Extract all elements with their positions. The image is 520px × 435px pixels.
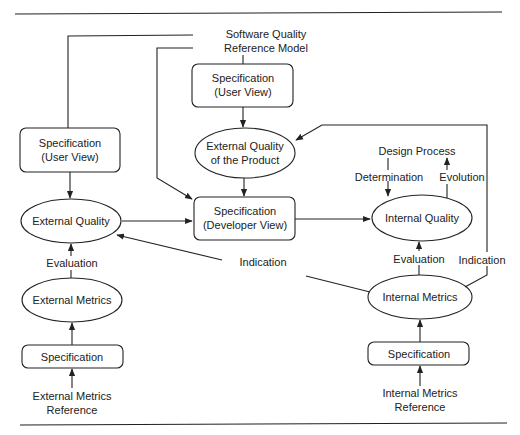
- evolution-label: Evolution: [439, 171, 484, 184]
- ext-metrics-reference-line1: External Metrics: [33, 389, 112, 403]
- edge-ref-to-left-spec: [68, 35, 193, 128]
- bottom-rule: [20, 423, 507, 425]
- ext-metrics-reference-line2: Reference: [33, 403, 112, 417]
- design-process: Design Process: [378, 145, 455, 158]
- spec-user-view-top: Specification (User View): [212, 71, 274, 99]
- ext-metrics-reference: External Metrics Reference: [33, 389, 112, 417]
- ext-quality-product-line2: of the Product: [206, 153, 284, 167]
- spec-user-view-top-line2: (User View): [212, 85, 274, 99]
- int-spec: Specification: [388, 347, 450, 361]
- spec-user-view-top-line1: Specification: [212, 71, 274, 85]
- spec-user-view-left: Specification (User View): [39, 136, 101, 164]
- external-quality: External Quality: [32, 214, 110, 228]
- spec-developer-view-line1: Specification: [203, 204, 287, 218]
- edge-ref-to-dev-spec: [157, 48, 193, 199]
- int-evaluation-label: Evaluation: [393, 253, 444, 266]
- top-rule: [15, 12, 502, 14]
- edge-indication-to-ext-quality: [117, 235, 222, 260]
- indication-right-label: Indication: [458, 254, 505, 267]
- external-metrics: External Metrics: [33, 293, 112, 307]
- spec-user-view-left-line2: (User View): [39, 150, 101, 164]
- spec-user-view-left-line1: Specification: [39, 136, 101, 150]
- int-metrics-reference-line1: Internal Metrics: [382, 386, 457, 400]
- spec-developer-view-line2: (Developer View): [203, 218, 287, 232]
- edge-int-metrics-to-indication: [465, 266, 487, 287]
- ref-model-line2: Reference Model: [224, 41, 308, 55]
- indication-left-label: Indication: [239, 256, 286, 269]
- ext-quality-product: External Quality of the Product: [206, 139, 284, 167]
- ext-evaluation-label: Evaluation: [46, 257, 97, 270]
- ref-model-line1: Software Quality: [224, 27, 308, 41]
- ext-quality-product-line1: External Quality: [206, 139, 284, 153]
- software-quality-reference-model: Software Quality Reference Model: [224, 27, 308, 55]
- internal-metrics: Internal Metrics: [382, 290, 457, 304]
- edge-int-metrics-to-ext-quality: [306, 276, 370, 292]
- spec-developer-view: Specification (Developer View): [203, 204, 287, 232]
- determination-label: Determination: [355, 171, 423, 184]
- int-metrics-reference: Internal Metrics Reference: [382, 386, 457, 414]
- ext-spec: Specification: [41, 350, 103, 364]
- int-metrics-reference-line2: Reference: [382, 400, 457, 414]
- internal-quality: Internal Quality: [385, 211, 459, 225]
